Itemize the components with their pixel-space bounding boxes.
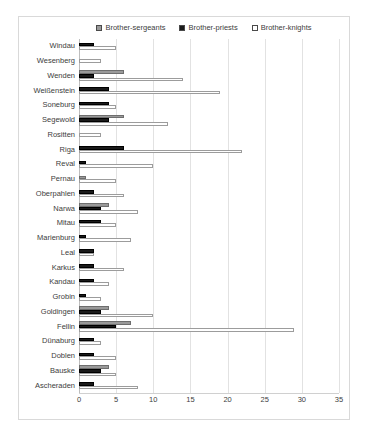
category-row: Reval — [79, 157, 339, 172]
bar-brother-knights — [79, 59, 101, 63]
bar-group — [79, 128, 339, 143]
category-label: Pernau — [51, 175, 75, 183]
gridline-35 — [339, 39, 340, 393]
x-tick-label: 10 — [149, 396, 157, 404]
bar-group — [79, 54, 339, 69]
bar-group — [79, 83, 339, 98]
bar-group — [79, 305, 339, 320]
category-label: Oberpahlen — [36, 190, 75, 198]
bar-brother-knights — [79, 91, 220, 95]
category-row: Soneburg — [79, 98, 339, 113]
category-row: Dünaburg — [79, 334, 339, 349]
category-rows: WindauWesenbergWendenWeißensteinSoneburg… — [79, 39, 339, 393]
bar-group — [79, 216, 339, 231]
category-label: Fellin — [57, 323, 75, 331]
bar-group — [79, 260, 339, 275]
bar-group — [79, 172, 339, 187]
bar-group — [79, 69, 339, 84]
category-label: Rositten — [47, 131, 75, 139]
legend-swatch-brother-sergeants — [96, 25, 102, 31]
category-row: Karkus — [79, 260, 339, 275]
x-tick-label: 25 — [261, 396, 269, 404]
category-label: Wenden — [47, 72, 75, 80]
category-row: Doblen — [79, 349, 339, 364]
category-label: Kandau — [49, 279, 75, 287]
bar-brother-knights — [79, 210, 138, 214]
x-tick-label: 20 — [223, 396, 231, 404]
bar-brother-knights — [79, 282, 109, 286]
legend-swatch-brother-priests — [179, 25, 185, 31]
legend-swatch-brother-knights — [252, 25, 258, 31]
category-row: Kandau — [79, 275, 339, 290]
category-label: Narwa — [53, 205, 75, 213]
category-row: Riga — [79, 142, 339, 157]
bar-brother-knights — [79, 253, 94, 257]
bar-brother-knights — [79, 268, 124, 272]
bar-group — [79, 98, 339, 113]
x-tick-label: 0 — [77, 396, 81, 404]
category-row: Marienburg — [79, 231, 339, 246]
category-row: Bauske — [79, 364, 339, 379]
bar-brother-knights — [79, 223, 116, 227]
bar-group — [79, 319, 339, 334]
bar-brother-knights — [79, 386, 138, 390]
category-label: Segewold — [42, 116, 75, 124]
bar-brother-knights — [79, 150, 242, 154]
bar-group — [79, 142, 339, 157]
category-row: Wesenberg — [79, 54, 339, 69]
category-row: Mitau — [79, 216, 339, 231]
category-row: Ascheraden — [79, 378, 339, 393]
category-label: Reval — [56, 161, 75, 169]
category-label: Windau — [50, 43, 75, 51]
bar-group — [79, 246, 339, 261]
bar-group — [79, 378, 339, 393]
bar-brother-knights — [79, 122, 168, 126]
bar-brother-knights — [79, 105, 116, 109]
bar-brother-knights — [79, 179, 116, 183]
category-label: Leal — [61, 249, 75, 257]
x-tick-label: 35 — [335, 396, 343, 404]
legend-label-brother-sergeants: Brother-sergeants — [105, 24, 165, 32]
category-row: Grobin — [79, 290, 339, 305]
category-label: Ascheraden — [35, 382, 75, 390]
category-label: Bauske — [50, 367, 75, 375]
category-label: Soneburg — [42, 102, 75, 110]
category-row: Goldingen — [79, 305, 339, 320]
category-row: Weißenstein — [79, 83, 339, 98]
legend-item-brother-sergeants: Brother-sergeants — [96, 24, 165, 32]
bar-group — [79, 113, 339, 128]
plot-area: WindauWesenbergWendenWeißensteinSoneburg… — [79, 39, 339, 393]
category-label: Weißenstein — [33, 87, 75, 95]
legend-label-brother-priests: Brother-priests — [188, 24, 237, 32]
category-row: Wenden — [79, 69, 339, 84]
bar-brother-knights — [79, 356, 116, 360]
category-row: Oberpahlen — [79, 187, 339, 202]
bar-group — [79, 349, 339, 364]
category-row: Rositten — [79, 128, 339, 143]
category-row: Narwa — [79, 201, 339, 216]
category-label: Marienburg — [37, 234, 75, 242]
bar-brother-knights — [79, 194, 124, 198]
bar-group — [79, 334, 339, 349]
bar-group — [79, 39, 339, 54]
bar-brother-knights — [79, 164, 153, 168]
bar-brother-knights — [79, 297, 101, 301]
legend-item-brother-priests: Brother-priests — [179, 24, 237, 32]
bar-group — [79, 275, 339, 290]
category-label: Mitau — [57, 220, 75, 228]
x-axis-line — [79, 393, 339, 394]
category-row: Windau — [79, 39, 339, 54]
bar-brother-knights — [79, 328, 294, 332]
category-row: Leal — [79, 246, 339, 261]
bar-group — [79, 187, 339, 202]
bar-group — [79, 201, 339, 216]
bar-group — [79, 157, 339, 172]
x-tick-label: 15 — [186, 396, 194, 404]
bar-brother-knights — [79, 46, 116, 50]
chart-legend: Brother-sergeants Brother-priests Brothe… — [19, 21, 349, 35]
bar-brother-knights — [79, 341, 101, 345]
bar-brother-knights — [79, 133, 101, 137]
category-label: Karkus — [52, 264, 75, 272]
category-row: Fellin — [79, 319, 339, 334]
x-axis: 05101520253035 — [79, 393, 339, 411]
